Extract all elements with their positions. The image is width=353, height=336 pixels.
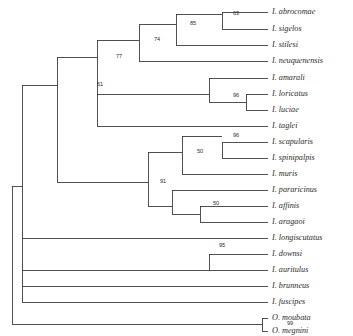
- taxon-label: I. sigelos: [271, 24, 302, 33]
- taxon-label: I. taglei: [271, 121, 298, 130]
- bootstrap-support-value: 61: [97, 81, 103, 87]
- taxon-label: I. neuquenensis: [271, 56, 323, 65]
- bootstrap-support-value: 91: [160, 178, 166, 184]
- taxon-label: I. stilesi: [271, 40, 299, 49]
- bootstrap-support-value: 96: [233, 132, 239, 138]
- taxon-label: I. brunneus: [271, 281, 309, 290]
- branch-layer: [12, 12, 268, 331]
- support-value-layer: 638574776196965091509599: [97, 10, 293, 326]
- taxon-label: I. fuscipes: [271, 297, 305, 306]
- bootstrap-support-value: 63: [233, 10, 239, 16]
- bootstrap-support-value: 77: [116, 53, 122, 59]
- bootstrap-support-value: 85: [190, 20, 196, 26]
- taxon-label: I. abrocomae: [271, 7, 316, 16]
- taxon-label: I. affinis: [271, 201, 299, 210]
- taxon-label: I. loricatus: [271, 89, 308, 98]
- taxon-label: I. pararicinus: [271, 185, 317, 194]
- taxon-label-layer: I. abrocomaeI. sigelosI. stilesiI. neuqu…: [271, 7, 323, 335]
- tree-canvas: 638574776196965091509599 I. abrocomaeI. …: [0, 0, 353, 336]
- taxon-label: O. moubata: [272, 313, 311, 322]
- taxon-label: I. luciae: [271, 105, 299, 114]
- taxon-label: I. longiscutatus: [271, 233, 323, 242]
- taxon-label: I. muris: [271, 169, 297, 178]
- taxon-label: I. amarali: [271, 73, 305, 82]
- bootstrap-support-value: 74: [154, 36, 160, 42]
- bootstrap-support-value: 95: [219, 242, 225, 248]
- taxon-label: I. auritulus: [271, 265, 308, 274]
- bootstrap-support-value: 96: [233, 92, 239, 98]
- taxon-label: I. aragaoi: [271, 217, 305, 226]
- taxon-label: I. scapularis: [271, 137, 313, 146]
- bootstrap-support-value: 50: [213, 200, 219, 206]
- phylogenetic-tree-figure: 638574776196965091509599 I. abrocomaeI. …: [0, 0, 353, 336]
- taxon-label: I. downsi: [271, 249, 303, 258]
- bootstrap-support-value: 50: [197, 148, 203, 154]
- taxon-label: O. megnini: [272, 326, 309, 335]
- taxon-label: I. spinipalpis: [271, 153, 315, 162]
